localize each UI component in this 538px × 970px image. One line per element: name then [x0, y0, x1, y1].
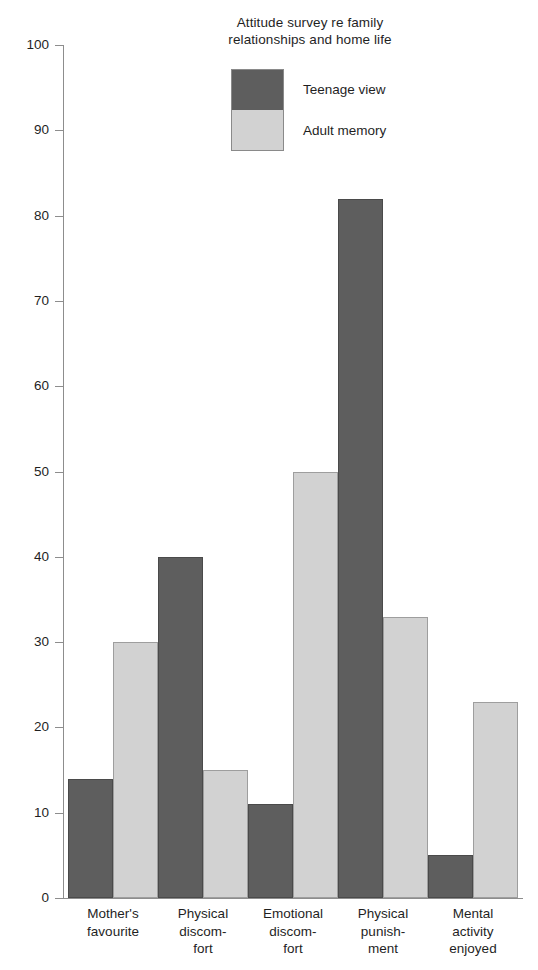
y-axis-tick-label: 50: [34, 463, 49, 480]
bar-teenage-view: [338, 199, 383, 898]
y-axis-tick-label: 80: [34, 207, 49, 224]
y-axis-tick-label: 0: [41, 889, 49, 906]
y-axis-tick-label: 100: [26, 36, 49, 53]
y-axis-tick: 80: [55, 216, 64, 217]
y-axis-tick: 70: [55, 301, 64, 302]
category-label-line: activity: [416, 923, 530, 941]
y-axis-tick: 20: [55, 727, 64, 728]
bar-adult-memory: [203, 770, 248, 898]
bar-teenage-view: [158, 557, 203, 898]
y-axis-tick: 30: [55, 642, 64, 643]
bar-teenage-view: [68, 779, 113, 898]
y-axis-tick-label: 30: [34, 633, 49, 650]
y-axis-tick-label: 70: [34, 292, 49, 309]
plot-area: 0102030405060708090100 Mother'sfavourite…: [63, 45, 523, 898]
category-label-line: Mental: [416, 905, 530, 923]
bar-adult-memory: [473, 702, 518, 898]
y-axis-tick: 10: [55, 813, 64, 814]
y-axis-tick: 100: [55, 45, 64, 46]
category-label-line: enjoyed: [416, 940, 530, 958]
y-axis-tick-label: 10: [34, 804, 49, 821]
y-axis-tick: 60: [55, 386, 64, 387]
y-axis-tick: 0: [55, 898, 64, 899]
chart-title-line-1: Attitude survey re family: [160, 14, 460, 31]
y-axis-tick: 50: [55, 472, 64, 473]
y-axis-tick-label: 20: [34, 718, 49, 735]
bar-adult-memory: [113, 642, 158, 898]
x-axis-line: [63, 898, 523, 899]
y-axis-tick-label: 40: [34, 548, 49, 565]
y-axis-tick: 90: [55, 130, 64, 131]
bar-teenage-view: [248, 804, 293, 898]
y-axis-tick-label: 90: [34, 121, 49, 138]
y-axis-tick-label: 60: [34, 377, 49, 394]
bar-adult-memory: [293, 472, 338, 899]
y-axis-tick: 40: [55, 557, 64, 558]
chart-title: Attitude survey re family relationships …: [160, 14, 460, 48]
x-axis-category-label: Mentalactivityenjoyed: [416, 905, 530, 958]
bar-adult-memory: [383, 617, 428, 898]
bar-teenage-view: [428, 855, 473, 898]
bar-chart: Attitude survey re family relationships …: [0, 0, 538, 970]
